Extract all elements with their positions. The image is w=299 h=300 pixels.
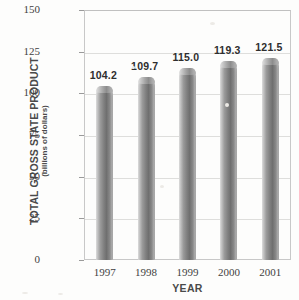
y-tick-label: 25 bbox=[6, 212, 40, 223]
y-tick-label: 100 bbox=[6, 87, 40, 98]
gridline bbox=[85, 94, 290, 95]
scan-speckle bbox=[22, 292, 28, 294]
y-tick-label: 0 bbox=[6, 254, 40, 265]
gridline bbox=[85, 178, 290, 179]
y-tick-label: 75 bbox=[6, 129, 40, 140]
y-tick-mark bbox=[79, 260, 84, 261]
x-tick-label: 1998 bbox=[123, 266, 169, 278]
gridline bbox=[85, 219, 290, 220]
x-tick-label: 2001 bbox=[247, 266, 293, 278]
x-axis-title: YEAR bbox=[84, 282, 291, 294]
y-tick-label: 150 bbox=[6, 4, 40, 15]
x-tick-label: 1999 bbox=[165, 266, 211, 278]
x-tick-label: 2000 bbox=[206, 266, 252, 278]
y-axis-title-main: TOTAL GROSS STATE PRODUCT bbox=[29, 57, 40, 225]
x-tick-label: 1997 bbox=[82, 266, 128, 278]
y-tick-label: 50 bbox=[6, 171, 40, 182]
y-tick-label: 125 bbox=[6, 46, 40, 57]
y-axis-ticks: 0255075100125150 bbox=[40, 0, 80, 300]
bar-chart: TOTAL GROSS STATE PRODUCT (billions of d… bbox=[0, 0, 299, 300]
gridline bbox=[85, 136, 290, 137]
plot-area bbox=[84, 10, 291, 260]
gridline bbox=[85, 53, 290, 54]
